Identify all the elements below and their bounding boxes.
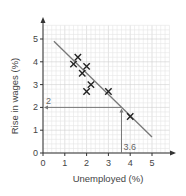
svg-text:3: 3: [33, 80, 38, 90]
svg-text:1: 1: [33, 125, 38, 135]
svg-text:5: 5: [149, 158, 154, 168]
scatter-chart: 012345012345 2 3.6 Unemployed (%) Rise i…: [0, 0, 186, 196]
svg-text:4: 4: [33, 57, 38, 67]
svg-text:5: 5: [33, 34, 38, 44]
svg-text:0: 0: [40, 158, 45, 168]
svg-text:0: 0: [33, 148, 38, 158]
annotation-y-label: 2: [46, 96, 51, 106]
svg-text:2: 2: [33, 102, 38, 112]
y-axis-title: Rise in wages (%): [9, 58, 20, 135]
svg-text:2: 2: [84, 158, 89, 168]
tick-labels: 012345012345: [33, 34, 155, 168]
svg-text:1: 1: [62, 158, 67, 168]
svg-text:4: 4: [128, 158, 133, 168]
annotation-x-label: 3.6: [123, 142, 136, 152]
svg-text:3: 3: [106, 158, 111, 168]
x-axis-title: Unemployed (%): [73, 173, 144, 184]
